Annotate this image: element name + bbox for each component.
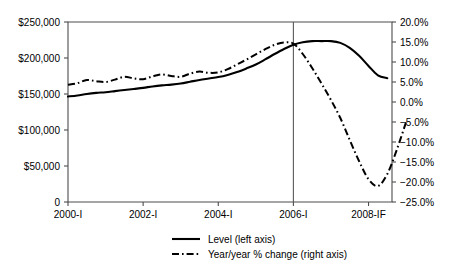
left-axis-tick-label: $50,000 xyxy=(24,161,61,172)
right-axis-tick-label: −15.0% xyxy=(400,157,434,168)
right-axis-tick-label: 0.0% xyxy=(400,97,423,108)
right-axis-tick-label: −20.0% xyxy=(400,177,434,188)
x-axis-tick-label: 2002-I xyxy=(129,209,157,220)
legend-label-1: Level (left axis) xyxy=(208,234,275,245)
x-axis-tick-label: 2004-I xyxy=(204,209,232,220)
right-axis-tick-label: 5.0% xyxy=(400,77,423,88)
left-axis-tick-label: $100,000 xyxy=(18,125,60,136)
left-axis-tick-label: $150,000 xyxy=(18,89,60,100)
series-line-yoy-change xyxy=(68,42,406,186)
chart-container: 0$50,000$100,000$150,000$200,000$250,000… xyxy=(0,0,460,275)
legend-label-2: Year/year % change (right axis) xyxy=(208,249,347,260)
x-axis-tick-label: 2000-I xyxy=(54,209,82,220)
right-axis-tick-label: 15.0% xyxy=(400,37,428,48)
chart-legend: Level (left axis)Year/year % change (rig… xyxy=(172,234,347,260)
axis-tick-marks xyxy=(64,22,396,206)
right-axis-tick-label: 20.0% xyxy=(400,17,428,28)
dual-axis-line-chart: 0$50,000$100,000$150,000$200,000$250,000… xyxy=(0,0,460,275)
right-axis-tick-labels: −25.0%−20.0%−15.0%−10.0%−5.0%0.0%5.0%10.… xyxy=(400,17,434,208)
x-axis-tick-labels: 2000-I2002-I2004-I2006-I2008-IF xyxy=(54,209,386,220)
data-series-group xyxy=(68,41,406,186)
left-axis-tick-label: $200,000 xyxy=(18,53,60,64)
right-axis-tick-label: −10.0% xyxy=(400,137,434,148)
x-axis-tick-label: 2006-I xyxy=(279,209,307,220)
right-axis-tick-label: −25.0% xyxy=(400,197,434,208)
plot-border xyxy=(68,22,392,202)
left-axis-tick-labels: 0$50,000$100,000$150,000$200,000$250,000 xyxy=(18,17,60,208)
plot-frame xyxy=(68,22,392,202)
right-axis-tick-label: 10.0% xyxy=(400,57,428,68)
x-axis-tick-label: 2008-IF xyxy=(351,209,385,220)
left-axis-tick-label: 0 xyxy=(54,197,60,208)
left-axis-tick-label: $250,000 xyxy=(18,17,60,28)
